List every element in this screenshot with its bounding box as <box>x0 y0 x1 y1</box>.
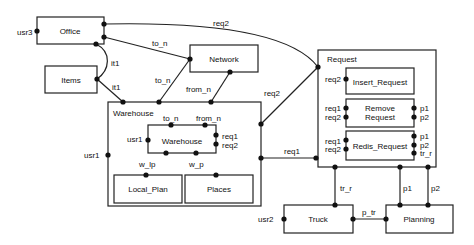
insert-request-label: Insert_Request <box>353 78 408 87</box>
rem-req2-port-label: req2 <box>325 113 342 122</box>
req1-inner-port-label: req1 <box>222 132 239 141</box>
it1-curve-connector <box>96 44 107 79</box>
planning-p2-port[interactable] <box>425 202 430 207</box>
tr-r-port-label: tr_r <box>340 184 352 193</box>
network-from-n-port[interactable] <box>227 69 232 74</box>
request-tr-r-port[interactable] <box>332 164 337 169</box>
places-component[interactable]: Places <box>185 175 253 203</box>
p-tr-port-label: p_tr <box>362 208 376 217</box>
items-label: Items <box>61 76 81 85</box>
redis-req2-port[interactable] <box>343 146 348 151</box>
office-to-n-port[interactable] <box>101 34 106 39</box>
req2-inner-port-label: req2 <box>222 141 239 150</box>
ins-req2-port-label: req2 <box>325 75 342 84</box>
remove-req1-port[interactable] <box>343 105 348 110</box>
req1-mid-port-label: req1 <box>284 147 301 156</box>
rem-req1-port-label: req1 <box>325 104 342 113</box>
planning-label: Planning <box>403 215 434 224</box>
local-plan-label: Local_Plan <box>128 185 168 194</box>
rem-p1-port-label: p1 <box>420 104 429 113</box>
to-n-connector <box>104 37 190 59</box>
warehouse-req2-port[interactable] <box>258 121 263 126</box>
w-lp-port-label: w_lp <box>138 160 156 169</box>
request-req2-port[interactable] <box>315 64 320 69</box>
warehouse-usr1-port[interactable] <box>105 152 110 157</box>
truck-label: Truck <box>308 215 329 224</box>
remove-request-label: Request <box>365 113 396 122</box>
truck-usr2-port[interactable] <box>281 216 286 221</box>
office-req2-port[interactable] <box>101 21 106 26</box>
inner-from-n-port[interactable] <box>202 122 207 127</box>
red-req2-port-label: req2 <box>325 145 342 154</box>
request-p2-port[interactable] <box>425 164 430 169</box>
redis-req1-port[interactable] <box>343 137 348 142</box>
remove-p2-port[interactable] <box>411 114 416 119</box>
warehouse-it1-port[interactable] <box>120 99 125 104</box>
places-label: Places <box>207 185 231 194</box>
remove-request-component[interactable]: Remove Request <box>346 99 414 127</box>
request-req1-port[interactable] <box>313 155 318 160</box>
p1-port-label: p1 <box>403 184 412 193</box>
warehouse-to-n-port[interactable] <box>156 99 161 104</box>
planning-component[interactable]: Planning <box>386 205 453 233</box>
items-component[interactable]: Items <box>45 66 97 93</box>
local-plan-port[interactable] <box>143 172 148 177</box>
truck-tr-r-port[interactable] <box>332 202 337 207</box>
inner-usr1-port[interactable] <box>145 137 150 142</box>
warehouse-inner-label: Warehouse <box>162 137 203 146</box>
redis-request-label: Redis_Request <box>353 142 408 151</box>
redis-p1-port[interactable] <box>411 133 416 138</box>
inner-w-lp-port[interactable] <box>163 150 168 155</box>
office-label: Office <box>60 27 81 36</box>
remove-p1-port[interactable] <box>411 105 416 110</box>
inner-req1-port[interactable] <box>213 132 218 137</box>
remove-req2-port[interactable] <box>343 114 348 119</box>
network-label: Network <box>209 55 239 64</box>
from-n-inner-port-label: from_n <box>196 114 221 123</box>
remove-request-label: Remove <box>365 104 395 113</box>
places-port[interactable] <box>213 172 218 177</box>
inner-to-n-port[interactable] <box>168 122 173 127</box>
architecture-diagram: Office usr3 Items it1 it1 Network to_n t… <box>0 0 474 245</box>
usr2-port-label: usr2 <box>258 215 274 224</box>
to-n-port-label: to_n <box>155 76 171 85</box>
insert-request-component[interactable]: Insert_Request <box>346 68 414 94</box>
office-it1-port[interactable] <box>93 41 98 46</box>
warehouse-outer-label: Warehouse <box>113 109 154 118</box>
from-n-port-label: from_n <box>186 85 211 94</box>
items-it1-port[interactable] <box>94 76 99 81</box>
request-label: Request <box>327 55 358 64</box>
it1-port-label: it1 <box>112 83 121 92</box>
network-component[interactable]: Network <box>190 45 258 72</box>
usr3-port-label: usr3 <box>17 28 33 37</box>
red-p1-port-label: p1 <box>420 132 429 141</box>
from-n-connector <box>211 72 230 102</box>
planning-p-tr-port[interactable] <box>383 216 388 221</box>
redis-tr-r-port[interactable] <box>411 150 416 155</box>
usr1-inner-port-label: usr1 <box>127 135 143 144</box>
redis-request-component[interactable]: Redis_Request <box>346 131 414 160</box>
usr3-port[interactable] <box>34 28 39 33</box>
truck-p-tr-port[interactable] <box>350 216 355 221</box>
p2-port-label: p2 <box>431 184 440 193</box>
insert-req2-port[interactable] <box>343 76 348 81</box>
redis-p2-port[interactable] <box>411 142 416 147</box>
network-to-n-port[interactable] <box>187 56 192 61</box>
it1-port-label: it1 <box>111 59 120 68</box>
inner-req2-port[interactable] <box>213 141 218 146</box>
request-p1-port[interactable] <box>397 164 402 169</box>
to-n-port-label: to_n <box>152 39 168 48</box>
warehouse-from-n-port[interactable] <box>208 99 213 104</box>
rem-p2-port-label: p2 <box>420 113 429 122</box>
warehouse-req1-port[interactable] <box>258 155 263 160</box>
to-n-inner-port-label: to_n <box>163 114 179 123</box>
usr1-port-label: usr1 <box>84 151 100 160</box>
inner-w-p-port[interactable] <box>193 150 198 155</box>
truck-component[interactable]: Truck <box>284 205 353 233</box>
planning-p1-port[interactable] <box>397 202 402 207</box>
warehouse-inner-component[interactable]: Warehouse <box>148 125 216 153</box>
req2-mid-port-label: req2 <box>264 89 281 98</box>
w-p-port-label: w_p <box>188 160 204 169</box>
office-component[interactable]: Office <box>37 17 104 44</box>
local-plan-component[interactable]: Local_Plan <box>114 175 182 203</box>
